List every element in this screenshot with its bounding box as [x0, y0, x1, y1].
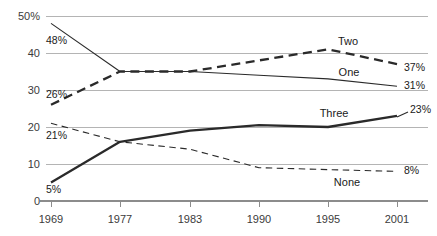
series-line-three: [51, 116, 397, 183]
x-tick-label-1977: 1977: [108, 213, 132, 225]
start-value-none: 21%: [46, 129, 67, 141]
end-value-three: 23%: [410, 103, 431, 115]
x-tick-label-1995: 1995: [316, 213, 340, 225]
y-tick-label-10: 10: [28, 158, 40, 170]
chart-canvas: 50% 40 30 20 10 0 1969 1977 1983 1990 19…: [0, 0, 437, 236]
series-label-none: None: [334, 176, 360, 188]
line-chart: 50% 40 30 20 10 0 1969 1977 1983 1990 19…: [0, 0, 437, 236]
x-tick-label-1969: 1969: [39, 213, 63, 225]
series-label-three: Three: [320, 107, 349, 119]
y-tick-label-40: 40: [28, 47, 40, 59]
three-leader-line: [397, 112, 408, 117]
end-value-one: 31%: [404, 79, 425, 91]
y-tick-label-50: 50%: [18, 10, 40, 22]
end-value-none: 8%: [404, 164, 419, 176]
x-tick-label-2001: 2001: [385, 213, 409, 225]
x-tick-label-1990: 1990: [247, 213, 271, 225]
y-tick-label-30: 30: [28, 84, 40, 96]
start-value-two: 26%: [46, 88, 67, 100]
y-tick-label-20: 20: [28, 121, 40, 133]
series-label-two: Two: [338, 35, 358, 47]
series-label-one: One: [339, 66, 360, 78]
end-value-two: 37%: [404, 61, 425, 73]
x-tick-label-1983: 1983: [178, 213, 202, 225]
start-value-one: 48%: [46, 34, 67, 46]
start-value-three: 5%: [46, 183, 61, 195]
y-tick-label-0: 0: [34, 195, 40, 207]
